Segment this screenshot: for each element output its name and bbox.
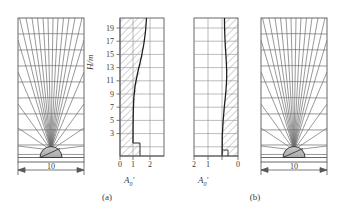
profile-plot-left <box>117 18 165 160</box>
figure-root: 10 19 17 15 13 11 9 7 5 3 H/m 0 1 2 A0' … <box>0 0 345 220</box>
y-ticks-left <box>117 28 121 134</box>
x-axis-label-right-prime: ' <box>207 176 209 185</box>
vertical-gridlines-right <box>208 18 222 156</box>
x-tick-1-left: 1 <box>125 160 141 169</box>
y-tick-3: 3 <box>96 129 114 138</box>
caption-a: (a) <box>82 192 132 202</box>
y-axis-label-left: H/m <box>85 55 95 71</box>
y-tick-13: 13 <box>96 63 114 72</box>
x-axis-label-left-prime: ' <box>133 176 135 185</box>
x-axis-label-left: A0' <box>124 175 134 187</box>
caption-b: (b) <box>230 192 280 202</box>
y-tick-5: 5 <box>96 116 114 125</box>
figure-canvas <box>0 0 345 220</box>
x-tick-0-right: 0 <box>230 160 246 169</box>
profile-plot-right <box>194 18 238 160</box>
ray-diagram-right <box>261 18 327 175</box>
x-tick-2-left: 2 <box>142 160 158 169</box>
dimension-label-left: 10 <box>33 162 69 171</box>
x-axis-label-right: A0' <box>198 175 208 187</box>
x-tick-1-right: 1 <box>200 160 216 169</box>
y-tick-15: 15 <box>96 50 114 59</box>
ray-diagram-left <box>18 18 84 175</box>
y-tick-19: 19 <box>96 24 114 33</box>
y-tick-9: 9 <box>96 90 114 99</box>
y-tick-11: 11 <box>96 76 114 85</box>
y-tick-17: 17 <box>96 37 114 46</box>
y-tick-7: 7 <box>96 103 114 112</box>
dimension-label-right: 10 <box>276 162 312 171</box>
